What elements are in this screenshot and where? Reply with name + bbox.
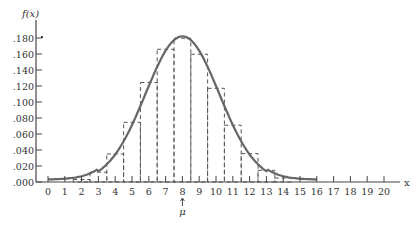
histogram-bar [157, 49, 174, 182]
x-tick-label: 1 [62, 186, 68, 197]
x-tick-label: 14 [277, 186, 289, 197]
y-tick-label: .140 [13, 65, 34, 76]
x-tick-label: 9 [196, 186, 202, 197]
histogram-bar [191, 54, 208, 182]
y-tick-label: .040 [13, 145, 34, 156]
x-tick-label: 5 [129, 186, 135, 197]
x-tick-label: 6 [146, 186, 152, 197]
x-tick-label: 4 [112, 186, 118, 197]
x-tick-label: 11 [227, 186, 239, 197]
chart: xf(x).000.020.040.060.080.100.120.140.16… [0, 0, 416, 227]
x-tick-label: 16 [311, 186, 323, 197]
marker-dot [41, 36, 43, 38]
x-tick-label: 15 [294, 186, 306, 197]
x-tick-label: 19 [361, 186, 373, 197]
x-tick-label: 7 [163, 186, 169, 197]
x-tick-label: 13 [260, 186, 272, 197]
x-tick-label: 8 [179, 186, 185, 197]
histogram-with-normal-curve: xf(x).000.020.040.060.080.100.120.140.16… [0, 0, 416, 227]
x-tick-label: 3 [95, 186, 101, 197]
y-tick-label: .100 [13, 97, 34, 108]
histogram-bar [174, 38, 191, 182]
normal-curve [48, 36, 317, 179]
x-tick-label: 20 [378, 186, 390, 197]
x-axis-label: x [404, 177, 410, 188]
y-tick-label: .060 [13, 129, 34, 140]
x-tick-label: 2 [79, 186, 85, 197]
mu-label: μ [179, 206, 186, 217]
x-tick-label: 10 [210, 186, 222, 197]
y-axis-label: f(x) [21, 8, 39, 19]
x-tick-label: 17 [328, 186, 340, 197]
x-tick-label: 0 [45, 186, 51, 197]
histogram-bar [124, 122, 141, 182]
y-tick-label: .120 [13, 81, 34, 92]
y-tick-label: .080 [13, 113, 34, 124]
y-tick-label: .000 [13, 177, 34, 188]
y-tick-label: .160 [13, 49, 34, 60]
x-tick-label: 18 [344, 186, 356, 197]
y-tick-label: .020 [13, 161, 34, 172]
x-tick-label: 12 [244, 186, 256, 197]
histogram-bar [224, 125, 241, 182]
y-tick-label: .180 [13, 33, 34, 44]
